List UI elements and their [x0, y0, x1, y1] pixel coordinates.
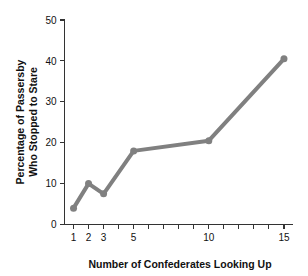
y-tick-label: 0: [51, 219, 57, 230]
y-axis-tick-labels: 01020304050: [45, 15, 57, 231]
data-point: [130, 147, 137, 154]
x-tick-label: 2: [86, 232, 92, 243]
y-tick-label: 30: [45, 96, 57, 107]
y-axis-title-line-2: Who Stopped to Stare: [27, 67, 39, 177]
series-line: [74, 59, 284, 208]
chart-container: 01020304050 12351015 Number of Confedera…: [0, 0, 308, 276]
line-chart: 01020304050 12351015 Number of Confedera…: [0, 0, 308, 276]
y-axis-title-line-1: Percentage of Passersby: [14, 59, 26, 184]
series-markers: [70, 55, 287, 211]
x-tick-label: 5: [131, 232, 137, 243]
data-point: [100, 190, 107, 197]
x-tick-label: 15: [278, 232, 290, 243]
y-tick-label: 40: [45, 56, 57, 67]
x-axis-ticks: [74, 225, 284, 230]
x-tick-label: 1: [71, 232, 77, 243]
data-point: [205, 137, 212, 144]
y-axis-ticks: [60, 20, 65, 225]
data-point: [280, 55, 287, 62]
x-tick-label: 3: [101, 232, 107, 243]
x-tick-label: 10: [203, 232, 215, 243]
data-point: [85, 180, 92, 187]
x-axis: 12351015: [65, 225, 294, 243]
y-axis: 01020304050: [45, 15, 64, 231]
data-point: [70, 205, 77, 212]
x-axis-tick-labels: 12351015: [71, 232, 290, 243]
y-tick-label: 10: [45, 178, 57, 189]
data-series: [70, 55, 287, 211]
y-tick-label: 50: [45, 15, 57, 26]
x-axis-title: Number of Confederates Looking Up: [88, 258, 271, 270]
y-tick-label: 20: [45, 137, 57, 148]
